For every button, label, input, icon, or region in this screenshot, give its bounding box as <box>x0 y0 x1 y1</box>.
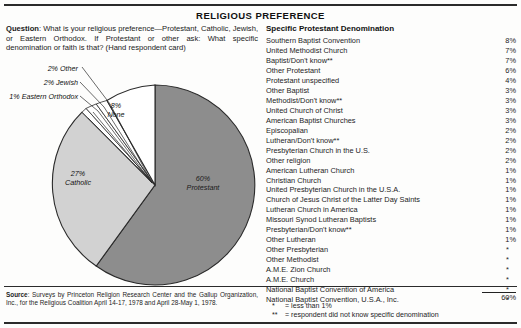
footnote-marker-star: * <box>272 302 285 311</box>
table-row: A.M.E. Church* <box>266 275 516 285</box>
denomination-name: A.M.E. Zion Church <box>266 265 483 275</box>
pie-label-none-name: None <box>107 110 124 119</box>
denomination-value: 1% <box>483 166 516 176</box>
footnote-text-doublestar: = respondent did not know specific denom… <box>285 311 439 319</box>
denomination-name: Other Baptist <box>266 86 483 96</box>
table-row: Baptist/Don't know**7% <box>266 56 516 66</box>
denomination-name: American Baptist Churches <box>266 116 483 126</box>
denomination-value: 8% <box>483 36 516 46</box>
denomination-name: Church of Jesus Christ of the Latter Day… <box>266 195 483 205</box>
denomination-value: * <box>483 245 516 255</box>
source-note: Source: Surveys by Princeton Religion Re… <box>6 291 258 307</box>
denomination-value: 3% <box>483 116 516 126</box>
denomination-name: American Lutheran Church <box>266 166 483 176</box>
table-row: Other Lutheran1% <box>266 235 516 245</box>
denomination-name: A.M.E. Church <box>266 275 483 285</box>
table-row: Other Baptist3% <box>266 86 516 96</box>
denomination-name: Lutheran/Don't know** <box>266 136 483 146</box>
denomination-value: 1% <box>483 235 516 245</box>
denomination-list: Specific Protestant Denomination Souther… <box>266 24 516 305</box>
denomination-name: Presbyterian Church in the U.S. <box>266 146 483 156</box>
denomination-value: 2% <box>483 146 516 156</box>
table-row: American Baptist Churches3% <box>266 116 516 126</box>
table-row: Other Methodist* <box>266 255 516 265</box>
denomination-value: 2% <box>483 156 516 166</box>
denomination-value: 6% <box>483 66 516 76</box>
pie-label-catholic: 27% Catholic <box>52 169 104 187</box>
pie-label-protestant-pct: 60% <box>196 174 210 183</box>
denomination-value: 1% <box>483 176 516 186</box>
footnotes: *= less than 1% **= respondent did not k… <box>272 302 516 321</box>
denomination-value: 3% <box>483 106 516 116</box>
pie-label-none: 8% None <box>96 101 136 119</box>
denomination-name: Other Protestant <box>266 66 483 76</box>
pie-label-protestant: 60% Protestant <box>174 174 232 192</box>
table-row: A.M.E. Zion Church* <box>266 265 516 275</box>
pie-chart-svg <box>0 0 265 286</box>
denomination-name: Other Presbyterian <box>266 245 483 255</box>
table-row: Lutheran Church in America1% <box>266 205 516 215</box>
denomination-name: Missouri Synod Lutheran Baptists <box>266 215 483 225</box>
denomination-name: Baptist/Don't know** <box>266 56 483 66</box>
table-row: Church of Jesus Christ of the Latter Day… <box>266 195 516 205</box>
denomination-name: Christian Church <box>266 176 483 186</box>
denomination-value: 1% <box>483 225 516 235</box>
denomination-value: * <box>483 265 516 275</box>
table-row: Episcopalian2% <box>266 126 516 136</box>
table-row: United Presbyterian Church in the U.S.A.… <box>266 185 516 195</box>
pie-chart: 2% Other 2% Jewish 1% Eastern Orthodox 8… <box>0 0 265 286</box>
pie-callout-eastern-orthodox: 1% Eastern Orthodox <box>0 92 78 101</box>
denomination-value: 1% <box>483 215 516 225</box>
denomination-value: * <box>483 255 516 265</box>
pie-callout-jewish: 2% Jewish <box>10 78 78 87</box>
table-row: Missouri Synod Lutheran Baptists1% <box>266 215 516 225</box>
denomination-table: Southern Baptist Convention8%United Meth… <box>266 36 516 305</box>
table-row: United Church of Christ3% <box>266 106 516 116</box>
denomination-value: 3% <box>483 96 516 106</box>
table-row: Presbyterian Church in the U.S.2% <box>266 146 516 156</box>
denomination-value: 2% <box>483 136 516 146</box>
denomination-name: Other religion <box>266 156 483 166</box>
table-row: Methodist/Don't know**3% <box>266 96 516 106</box>
table-row: Christian Church1% <box>266 176 516 186</box>
footnote-text-star: = less than 1% <box>285 302 332 310</box>
footnote-marker-doublestar: ** <box>272 311 285 320</box>
denomination-name: Other Methodist <box>266 255 483 265</box>
denomination-name: Protestant unspecified <box>266 76 483 86</box>
table-row: Other Presbyterian* <box>266 245 516 255</box>
denomination-name: United Presbyterian Church in the U.S.A. <box>266 185 483 195</box>
source-label: Source <box>6 291 28 298</box>
table-row: United Methodist Church7% <box>266 46 516 56</box>
denomination-value: 4% <box>483 76 516 86</box>
bottom-divider-rule <box>4 322 517 324</box>
denomination-value: 2% <box>483 126 516 136</box>
denomination-name: Lutheran Church in America <box>266 205 483 215</box>
denomination-name: Southern Baptist Convention <box>266 36 483 46</box>
pie-label-none-pct: 8% <box>111 101 121 110</box>
denomination-value: 1% <box>483 185 516 195</box>
pie-label-protestant-name: Protestant <box>187 183 220 192</box>
footnote-double-star: **= respondent did not know specific den… <box>272 311 516 320</box>
footnote-single-star: *= less than 1% <box>272 302 516 311</box>
denomination-value: 7% <box>483 56 516 66</box>
denomination-value: * <box>483 275 516 285</box>
denomination-name: Presbyterian/Don't know** <box>266 225 483 235</box>
religious-preference-infographic: RELIGIOUS PREFERENCE Question: What is y… <box>0 0 521 328</box>
table-row: Other religion2% <box>266 156 516 166</box>
table-row: American Lutheran Church1% <box>266 166 516 176</box>
table-row: Protestant unspecified4% <box>266 76 516 86</box>
denomination-value: 3% <box>483 86 516 96</box>
denomination-name: Other Lutheran <box>266 235 483 245</box>
pie-callout-other: 2% Other <box>10 64 78 73</box>
denomination-list-heading: Specific Protestant Denomination <box>266 24 516 33</box>
table-row: Lutheran/Don't know**2% <box>266 136 516 146</box>
denomination-value: 7% <box>483 46 516 56</box>
pie-label-catholic-pct: 27% <box>71 169 85 178</box>
table-row: Presbyterian/Don't know**1% <box>266 225 516 235</box>
denomination-name: Episcopalian <box>266 126 483 136</box>
denomination-name: United Church of Christ <box>266 106 483 116</box>
denomination-name: United Methodist Church <box>266 46 483 56</box>
denomination-total: 60% <box>482 293 516 302</box>
source-divider-rule <box>4 286 517 287</box>
denomination-value: 1% <box>483 205 516 215</box>
